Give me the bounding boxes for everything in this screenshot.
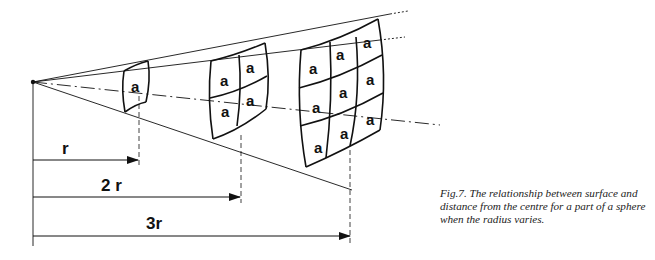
cell-label: a [246,92,255,109]
cell-label: a [366,71,375,88]
cell-label: a [340,125,349,142]
cell-label: a [246,59,255,76]
cell-label: a [309,60,318,77]
cell-label: a [131,78,140,95]
cell-label: a [366,111,375,128]
ray-second-ext [380,37,405,40]
figure: a a a a a a a a a a a a [0,0,655,260]
cell-label: a [339,84,348,101]
ray-lower [33,82,352,190]
ray-center-dashdot [33,82,440,125]
rays [33,11,440,190]
label-3r: 3r [146,214,162,233]
figure-caption: Fig.7. The relationship between surface … [440,187,652,226]
cell-label: a [312,99,321,116]
patch-2r [209,43,268,139]
cell-label: a [336,46,345,63]
cell-label: a [314,139,323,156]
ray-second [33,40,380,82]
cell-label: a [363,34,372,51]
label-2r: 2 r [101,176,122,195]
cell-label: a [220,72,229,89]
label-r: r [62,139,69,158]
cell-label: a [221,103,230,120]
ray-upper-ext [390,11,408,14]
